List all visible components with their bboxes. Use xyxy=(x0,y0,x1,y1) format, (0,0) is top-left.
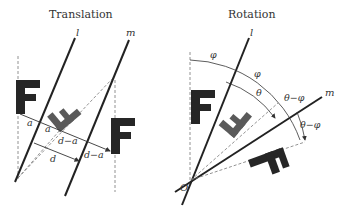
translation-panel: Translation l m xyxy=(15,8,135,196)
label-theta-minus-phi-2: θ−φ xyxy=(300,119,321,130)
rotation-title: Rotation xyxy=(228,8,276,21)
letter-f-rotated xyxy=(248,147,290,180)
reflection-diagram: Translation l m xyxy=(0,0,348,215)
label-d-minus-a-1: d−a xyxy=(58,135,78,146)
label-origin: O xyxy=(180,182,188,193)
letter-f-translated xyxy=(111,118,135,154)
rotation-panel: Rotation l m φ φ θ θ−φ θ−φ xyxy=(175,8,334,205)
letter-f-original xyxy=(16,80,40,114)
label-theta-minus-phi-1: θ−φ xyxy=(284,92,305,103)
dashed-diagonal-upper xyxy=(18,79,112,178)
translation-title: Translation xyxy=(49,8,113,21)
dashed-ray-final xyxy=(191,142,305,180)
label-a-2: a xyxy=(45,123,51,134)
label-d: d xyxy=(50,153,56,164)
label-l: l xyxy=(250,27,253,38)
label-m: m xyxy=(325,87,334,98)
label-d-minus-a-2: d−a xyxy=(84,149,104,160)
label-phi-2: φ xyxy=(254,68,261,79)
label-a-1: a xyxy=(27,117,33,128)
letter-f-reflected xyxy=(219,104,252,138)
label-phi-1: φ xyxy=(210,49,217,60)
letter-f-original xyxy=(191,90,215,124)
label-m: m xyxy=(126,27,135,38)
dashed-ray-theta xyxy=(191,103,278,180)
label-theta: θ xyxy=(256,87,262,98)
label-l: l xyxy=(76,27,79,38)
